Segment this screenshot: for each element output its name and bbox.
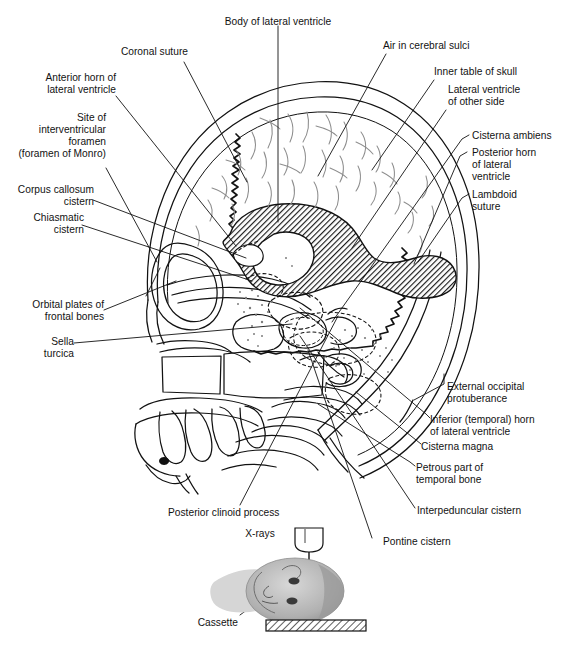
label-chiasmatic-cistern-line2: cistern xyxy=(0,224,84,236)
leader-lines xyxy=(74,26,469,615)
label-inner-table-of-skull: Inner table of skull xyxy=(434,66,558,78)
label-interventricular-foramen-line2: interventricular xyxy=(0,124,106,136)
label-lambdoid-suture-line2: suture xyxy=(472,201,556,213)
leader-chiasmatic-cistern xyxy=(82,225,252,281)
label-posterior-clinoid-process: Posterior clinoid process xyxy=(168,507,328,519)
maxilla-upper xyxy=(160,348,250,362)
hard-palate-box xyxy=(162,356,221,394)
label-posterior-horn-line1: Posterior horn xyxy=(472,147,560,159)
tooth-1 xyxy=(159,411,186,464)
foramen-magnum-edge xyxy=(268,417,342,436)
leader-lambdoid-suture xyxy=(418,194,469,262)
eye-lower xyxy=(287,598,298,605)
cervical-1 xyxy=(236,436,324,455)
label-sella-turcica-line2: turcica xyxy=(0,348,74,360)
label-corpus-callosum-cistern-line2: cistern xyxy=(0,196,94,208)
label-orbital-plates-line1: Orbital plates of xyxy=(0,299,104,311)
label-body-of-lateral-ventricle: Body of lateral ventricle xyxy=(213,16,343,28)
label-interpeduncular-cistern: Interpeduncular cistern xyxy=(417,505,557,517)
label-orbital-plates-line2: frontal bones xyxy=(0,311,104,323)
label-inferior-temporal-horn-line1: Inferior (temporal) horn xyxy=(430,414,561,426)
label-sella-turcica-line1: Sella xyxy=(0,336,74,348)
label-posterior-horn-line3: ventricle xyxy=(472,171,560,183)
leader-anterior-horn xyxy=(116,96,236,246)
label-lambdoid-suture-line1: Lambdoid xyxy=(472,189,556,201)
label-posterior-horn-line2: of lateral xyxy=(472,159,560,171)
mental-foramen xyxy=(159,457,169,465)
label-cisterna-magna: Cisterna magna xyxy=(421,441,531,453)
maxilla-right-arc2 xyxy=(330,363,353,384)
label-chiasmatic-cistern-line1: Chiasmatic xyxy=(0,212,84,224)
chin-outline3 xyxy=(186,474,198,494)
label-coronal-suture: Coronal suture xyxy=(60,46,188,58)
cassette-plate xyxy=(266,620,366,631)
posterior-neck-line xyxy=(318,430,348,472)
label-petrous-part-line2: temporal bone xyxy=(416,474,516,486)
maxillary-sinus-box xyxy=(224,352,324,398)
label-xrays: X-rays xyxy=(232,528,288,540)
mandible-ramus xyxy=(135,424,180,476)
label-cassette: Cassette xyxy=(176,617,238,629)
label-petrous-part-line1: Petrous part of xyxy=(416,462,516,474)
interventricular-foramen-notch xyxy=(233,245,263,267)
label-interventricular-foramen-line1: Site of xyxy=(0,112,106,124)
label-interventricular-foramen-line4: (foramen of Monro) xyxy=(0,148,106,160)
basiocciput xyxy=(272,402,345,418)
xray-setup-illustration xyxy=(210,528,366,631)
cervical-3 xyxy=(222,465,276,470)
occipital-condyle xyxy=(252,426,327,443)
label-pontine-cistern: Pontine cistern xyxy=(383,536,493,548)
label-inferior-temporal-horn-line2: of lateral ventricle xyxy=(430,426,561,438)
label-external-occipital-protuberance-line2: protuberance xyxy=(447,393,561,405)
label-air-in-cerebral-sulci: Air in cerebral sulci xyxy=(383,40,533,52)
mandible-body xyxy=(140,398,262,412)
label-anterior-horn-line2: lateral ventricle xyxy=(8,84,116,96)
label-lateral-ventricle-other-side-line1: Lateral ventricle xyxy=(448,84,560,96)
label-corpus-callosum-cistern-line1: Corpus callosum xyxy=(0,184,94,196)
figure-canvas: Body of lateral ventricle Coronal suture… xyxy=(0,0,561,649)
label-interventricular-foramen-line3: foramen xyxy=(0,136,106,148)
label-lateral-ventricle-other-side-line2: of other side xyxy=(448,96,560,108)
xray-tube xyxy=(295,528,323,552)
leader-corpus-callosum-cistern xyxy=(93,200,246,258)
label-external-occipital-protuberance-line1: External occipital xyxy=(447,381,561,393)
eye-upper xyxy=(289,578,300,585)
leader-air-in-cerebral-sulci xyxy=(318,54,386,176)
frontal-bone-front xyxy=(147,300,152,342)
label-anterior-horn-line1: Anterior horn of xyxy=(8,72,116,84)
label-cisterna-ambiens: Cisterna ambiens xyxy=(472,130,561,142)
tooth-2 xyxy=(185,409,212,461)
